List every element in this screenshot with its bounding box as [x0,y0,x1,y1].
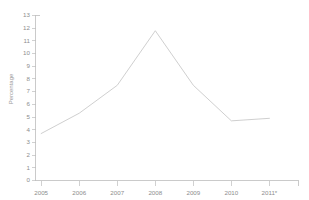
axis-tick-marks [32,16,269,186]
data-series-line [41,31,269,134]
plot-area [0,0,309,200]
axis-lines [36,15,299,186]
line-chart: Percentage 012345678910111213 2005200620… [0,0,309,200]
